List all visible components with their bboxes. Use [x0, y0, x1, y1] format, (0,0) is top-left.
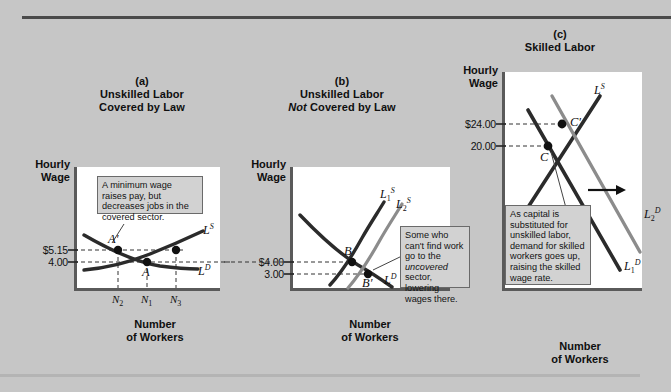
panel-c-point-label-C: C [540, 150, 548, 165]
economics-figure: (a) Unskilled Labor Covered by Law Hourl… [0, 0, 671, 392]
panel-c-curve-label-demand1: L1D [624, 258, 640, 275]
panel-c-curves [0, 0, 671, 392]
panel-c-curve-label-supply: LS [594, 82, 605, 98]
panel-c-point-label-C-prime: C′ [570, 115, 581, 130]
panel-c-curve-label-demand2: L2D [644, 206, 660, 223]
panel-c-callout: As capital is substituted for unskilled … [505, 205, 591, 285]
